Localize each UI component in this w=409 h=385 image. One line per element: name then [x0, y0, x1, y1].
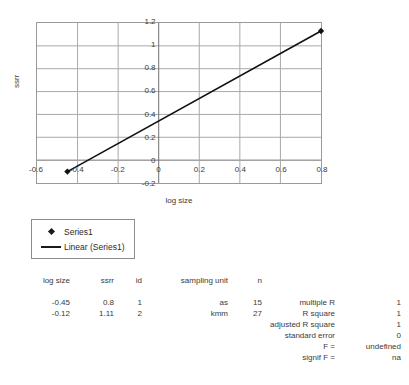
table-header-row: log sizessrridsampling unitn: [18, 276, 262, 297]
y-axis-title: ssrr: [12, 75, 21, 88]
x-tick-label: 0.6: [276, 166, 287, 174]
stats-row: F =undefined: [270, 341, 401, 352]
x-axis-title: log size: [36, 196, 322, 205]
table-row: -0.121.112kmm27: [18, 308, 262, 319]
x-tick-label: -0.4: [70, 166, 84, 174]
x-tick-label: 0.4: [235, 166, 246, 174]
y-tick-label: 0.8: [144, 64, 155, 72]
x-tick-label: -0.2: [111, 166, 125, 174]
table-cell: 27: [228, 308, 262, 319]
table-cell: 1.11: [70, 308, 114, 319]
stats-label: R square: [270, 308, 349, 319]
table-cell: as: [142, 297, 228, 308]
table-header: log sizessrridsampling unitn: [18, 276, 262, 297]
stats-value: 1: [349, 308, 401, 319]
x-tick-label: 0.8: [316, 166, 327, 174]
plot-area: [36, 22, 322, 184]
table-column-header: ssrr: [70, 276, 114, 297]
x-tick-label: 0: [156, 166, 160, 174]
stats-body: multiple R1R square1adjusted R square1st…: [270, 297, 401, 363]
legend-item: Series1: [38, 224, 124, 239]
stats-value: 1: [349, 319, 401, 330]
stats-row: signif F =na: [270, 352, 401, 363]
legend-item: Linear (Series1): [38, 239, 124, 254]
stats-row: adjusted R square1: [270, 319, 401, 330]
table-cell: kmm: [142, 308, 228, 319]
legend-item-label: Linear (Series1): [64, 242, 124, 252]
y-tick-label: -0.2: [142, 180, 156, 188]
y-tick-label: 0.2: [144, 134, 155, 142]
stats-label: signif F =: [270, 352, 349, 363]
stats-value: undefined: [349, 341, 401, 352]
stats-row: standard error0: [270, 330, 401, 341]
stats-label: F =: [270, 341, 349, 352]
table-column-header: id: [114, 276, 142, 297]
stats-label: standard error: [270, 330, 349, 341]
stats-label: multiple R: [270, 297, 349, 308]
legend-key-line: [38, 246, 64, 248]
stats-value: 0: [349, 330, 401, 341]
stats-value: na: [349, 352, 401, 363]
legend-line-icon: [41, 246, 61, 248]
table-cell: -0.45: [18, 297, 70, 308]
series-layer: [64, 28, 324, 175]
table-row: -0.450.81as15: [18, 297, 262, 308]
x-tick-label: 0.2: [194, 166, 205, 174]
table-column-header: sampling unit: [142, 276, 228, 297]
table-body: -0.450.81as15-0.121.112kmm27: [18, 297, 262, 319]
stats-value: 1: [349, 297, 401, 308]
regression-stats-panel: multiple R1R square1adjusted R square1st…: [270, 297, 401, 363]
data-table: log sizessrridsampling unitn -0.450.81as…: [18, 276, 262, 319]
y-tick-label: 0: [151, 157, 155, 165]
regression-chart: -0.200.20.40.60.811.2 -0.6-0.4-0.200.20.…: [0, 0, 409, 210]
y-tick-label: 0.4: [144, 111, 155, 119]
stats-label: adjusted R square: [270, 319, 349, 330]
y-tick-label: 0.6: [144, 87, 155, 95]
legend-item-label: Series1: [64, 227, 93, 237]
table-cell: 15: [228, 297, 262, 308]
y-tick-label: 1: [151, 41, 155, 49]
table-cell: 2: [114, 308, 142, 319]
trendline: [67, 31, 321, 172]
table-column-header: n: [228, 276, 262, 297]
chart-legend: Series1Linear (Series1): [31, 219, 135, 259]
plot-svg: [37, 23, 321, 183]
table-column-header: log size: [18, 276, 70, 297]
gridlines: [37, 23, 321, 183]
x-tick-label: -0.6: [29, 166, 43, 174]
table-cell: 1: [114, 297, 142, 308]
legend-diamond-icon: [47, 228, 54, 235]
data-point-marker: [318, 28, 324, 34]
table-cell: -0.12: [18, 308, 70, 319]
stats-row: R square1: [270, 308, 401, 319]
table-cell: 0.8: [70, 297, 114, 308]
legend-key-diamond: [38, 229, 64, 234]
y-tick-label: 1.2: [144, 18, 155, 26]
stats-row: multiple R1: [270, 297, 401, 308]
